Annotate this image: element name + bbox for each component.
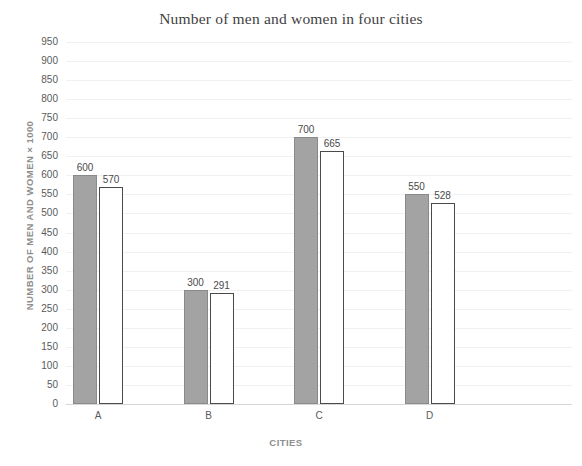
x-axis-tick-label-D: D [410, 410, 450, 421]
plot-area: 600570300291700665550528 [66, 42, 572, 404]
y-axis-tick-label: 950 [28, 37, 58, 47]
x-axis-tick-label-B: B [189, 410, 229, 421]
gridline [66, 252, 572, 253]
y-axis-tick-label: 750 [28, 113, 58, 123]
gridline [66, 61, 572, 62]
y-axis-tick-label: 150 [28, 342, 58, 352]
bar-value-label-women-C: 665 [316, 138, 348, 149]
bar-women-A[interactable] [99, 187, 123, 404]
bar-value-label-women-D: 528 [427, 190, 459, 201]
chart-title: Number of men and women in four cities [0, 10, 582, 28]
y-axis-tick-label: 50 [28, 380, 58, 390]
bar-men-C[interactable] [294, 137, 318, 404]
y-axis-tick-label: 200 [28, 323, 58, 333]
x-axis-title: CITIES [66, 437, 506, 448]
axis-baseline [66, 404, 572, 405]
gridline [66, 175, 572, 176]
y-axis-tick-label: 300 [28, 285, 58, 295]
y-axis-tick-label: 900 [28, 56, 58, 66]
y-axis-tick-label: 550 [28, 189, 58, 199]
gridline [66, 156, 572, 157]
y-axis-tick-label: 850 [28, 75, 58, 85]
y-axis-tick-label: 100 [28, 361, 58, 371]
y-axis-tick-label: 600 [28, 170, 58, 180]
gridline [66, 118, 572, 119]
y-axis-tick-label: 800 [28, 94, 58, 104]
y-axis-tick-label: 0 [28, 399, 58, 409]
bar-men-D[interactable] [405, 194, 429, 404]
bar-value-label-men-C: 700 [290, 124, 322, 135]
bar-value-label-men-A: 600 [69, 162, 101, 173]
gridline [66, 290, 572, 291]
gridline [66, 347, 572, 348]
bar-women-D[interactable] [431, 203, 455, 404]
y-axis-tick-label: 450 [28, 228, 58, 238]
gridline [66, 80, 572, 81]
y-axis-tick-label: 700 [28, 132, 58, 142]
bar-value-label-women-A: 570 [95, 174, 127, 185]
y-axis-tick-label: 250 [28, 304, 58, 314]
gridline [66, 328, 572, 329]
gridline [66, 213, 572, 214]
gridline [66, 309, 572, 310]
gridline [66, 385, 572, 386]
y-axis-tick-labels: 0501001502002503003504004505005506006507… [0, 0, 62, 466]
gridline [66, 99, 572, 100]
gridline [66, 42, 572, 43]
y-axis-tick-label: 400 [28, 247, 58, 257]
bar-men-A[interactable] [73, 175, 97, 404]
x-axis-tick-label-A: A [78, 410, 118, 421]
gridline [66, 233, 572, 234]
bar-women-C[interactable] [320, 151, 344, 404]
gridline [66, 366, 572, 367]
bar-value-label-women-B: 291 [206, 280, 238, 291]
bar-women-B[interactable] [210, 293, 234, 404]
bar-men-B[interactable] [184, 290, 208, 404]
y-axis-tick-label: 350 [28, 266, 58, 276]
x-axis-tick-label-C: C [299, 410, 339, 421]
gridline [66, 194, 572, 195]
y-axis-tick-label: 500 [28, 208, 58, 218]
y-axis-tick-label: 650 [28, 151, 58, 161]
gridline [66, 271, 572, 272]
